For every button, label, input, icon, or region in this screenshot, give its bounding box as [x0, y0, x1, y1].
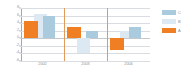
- bar-a-2003[interactable]: [67, 27, 82, 38]
- bar-c-2002[interactable]: [43, 16, 56, 39]
- legend-swatch-c: [162, 10, 176, 15]
- y-tick-label: -6: [16, 59, 19, 63]
- legend-item-c[interactable]: C: [162, 9, 193, 16]
- gridline: [21, 8, 150, 9]
- y-tick-mark: [19, 30, 21, 31]
- legend-item-a[interactable]: A: [162, 27, 193, 34]
- category-separator: [64, 8, 65, 61]
- legend-item-b[interactable]: B: [162, 18, 193, 25]
- legend-swatch-a: [162, 28, 176, 33]
- plot-area: 86420-2-4-6: [21, 8, 150, 61]
- category-separator: [107, 8, 108, 61]
- y-tick-mark: [19, 8, 21, 9]
- legend-label-a: A: [178, 29, 181, 33]
- bar-b-2003[interactable]: [77, 38, 90, 53]
- bar-a-2002[interactable]: [24, 21, 39, 38]
- y-tick-label: 0: [17, 36, 19, 40]
- y-tick-mark: [19, 15, 21, 16]
- y-tick-label: -4: [16, 52, 19, 56]
- y-tick-mark: [19, 38, 21, 39]
- y-tick-label: -2: [16, 44, 19, 48]
- y-tick-label: 2: [17, 29, 19, 33]
- bar-c-2004[interactable]: [129, 27, 142, 38]
- y-tick-label: 4: [17, 21, 19, 25]
- y-tick-mark: [19, 45, 21, 46]
- bar-a-2004[interactable]: [110, 38, 125, 49]
- legend-label-b: B: [178, 20, 181, 24]
- y-tick-mark: [19, 23, 21, 24]
- x-tick-label-2004: 2004: [124, 63, 132, 67]
- bar-c-2003[interactable]: [86, 31, 99, 39]
- gridline: [21, 53, 150, 54]
- y-tick-label: 6: [17, 14, 19, 18]
- y-tick-mark: [19, 53, 21, 54]
- legend-label-c: C: [178, 11, 181, 15]
- chart-legend: CBA: [162, 9, 193, 36]
- bar-chart: 86420-2-4-6 200220032004 CBA: [0, 0, 193, 73]
- y-tick-label: 8: [17, 6, 19, 10]
- legend-swatch-b: [162, 19, 176, 24]
- x-tick-label-2002: 2002: [38, 63, 46, 67]
- x-tick-label-2003: 2003: [81, 63, 89, 67]
- y-tick-mark: [19, 61, 21, 62]
